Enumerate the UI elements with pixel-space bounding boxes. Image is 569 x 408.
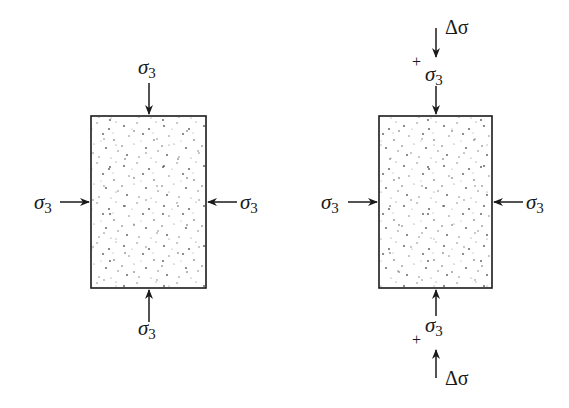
right-bottom-delta-sigma-label: Δσ <box>445 367 469 389</box>
left-right-sigma-label: σ3 <box>240 190 258 216</box>
right-top-delta-sigma-label: Δσ <box>445 16 469 38</box>
left-top-sigma-label: σ3 <box>138 55 156 81</box>
right-top-plus-sign: + <box>412 53 421 70</box>
right-right-sigma-label: σ3 <box>526 190 544 216</box>
left-left-sigma-label: σ3 <box>34 190 52 216</box>
right-left-sigma-label: σ3 <box>321 190 339 216</box>
right-bottom-sigma-label: σ3 <box>425 313 443 339</box>
left-bottom-sigma-label: σ3 <box>138 316 156 342</box>
triaxial-stress-diagram: σ3 σ3 σ3 σ3 Δσ + σ3 σ3 + Δσ σ3 σ3 <box>0 0 569 408</box>
right-specimen: Δσ + σ3 σ3 + Δσ σ3 σ3 <box>321 16 544 389</box>
right-top-sigma-label: σ3 <box>425 62 443 88</box>
right-bottom-plus-sign: + <box>412 331 421 348</box>
left-specimen: σ3 σ3 σ3 σ3 <box>34 55 258 342</box>
